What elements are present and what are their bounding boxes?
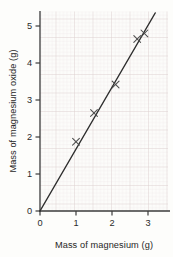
plot-area bbox=[40, 12, 168, 212]
chart-figure: 0 1 2 3 0 1 2 3 4 5 bbox=[0, 0, 173, 257]
y-tick-label-3: 3 bbox=[27, 95, 32, 105]
x-tick-label-2: 2 bbox=[109, 218, 114, 228]
y-tick-label-5: 5 bbox=[27, 21, 32, 31]
x-tick-label-1: 1 bbox=[73, 218, 78, 228]
grid-lines bbox=[40, 12, 168, 212]
scatter-plot-svg: 0 1 2 3 0 1 2 3 4 5 bbox=[0, 0, 173, 257]
x-tick-label-0: 0 bbox=[37, 218, 42, 228]
x-axis-title: Mass of magnesium (g) bbox=[55, 240, 153, 250]
x-tick-label-3: 3 bbox=[145, 218, 150, 228]
y-tick-label-1: 1 bbox=[27, 169, 32, 179]
y-tick-label-4: 4 bbox=[27, 58, 32, 68]
y-tick-label-2: 2 bbox=[27, 132, 32, 142]
y-axis-title: Mass of magnesium oxide (g) bbox=[8, 49, 18, 172]
y-tick-label-0: 0 bbox=[27, 206, 32, 216]
